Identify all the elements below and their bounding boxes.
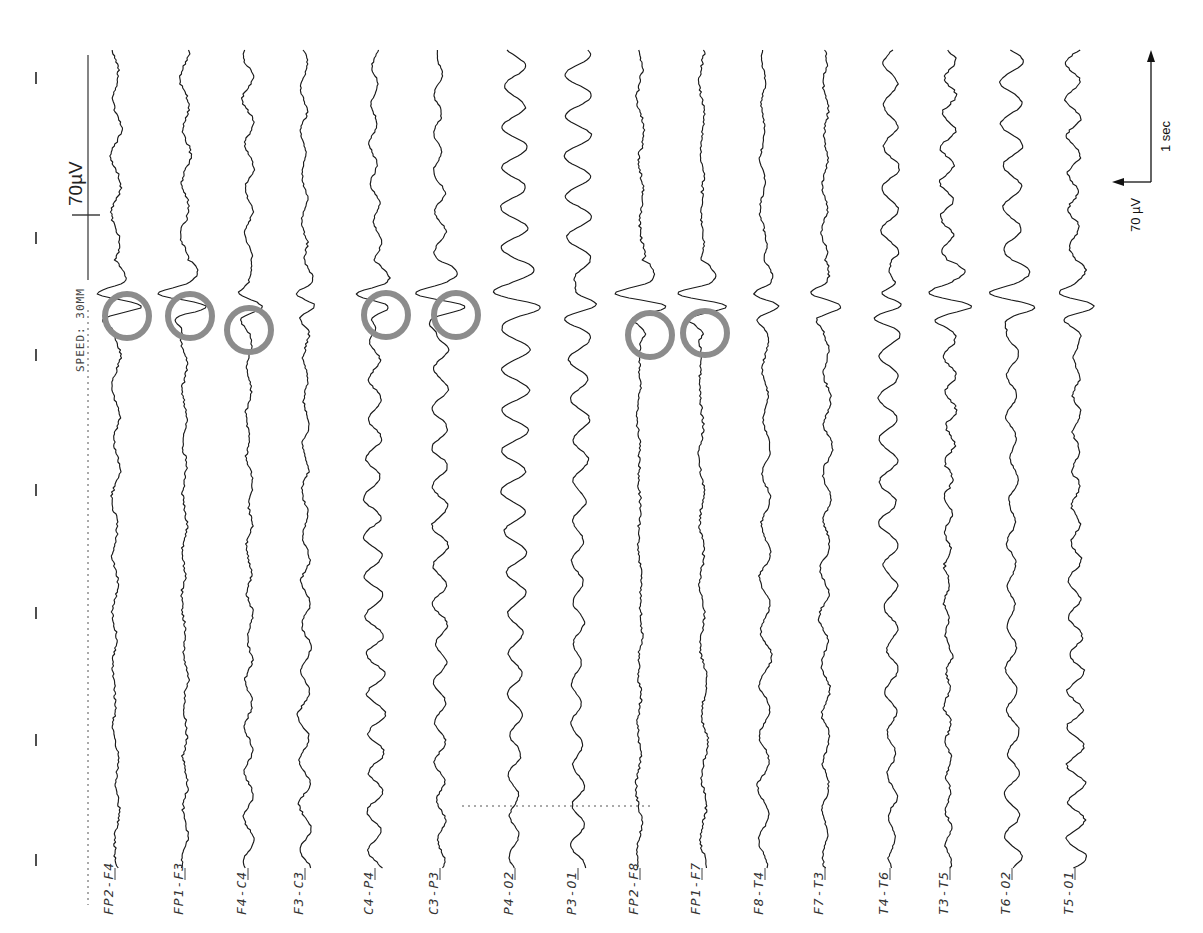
channel-label-c3-p3: C3-P3 xyxy=(426,871,441,915)
eeg-trace-t5-o1 xyxy=(1060,50,1095,868)
eeg-traces xyxy=(97,50,1094,868)
header-strip: SPEED: 30MM 70µV xyxy=(65,55,100,905)
eeg-trace-f4-c4 xyxy=(238,50,262,868)
channel-labels: FP2-F4FP1-F3F4-C4F3-C3C4-P4C3-P3P4-O2P3-… xyxy=(101,806,1076,915)
channel-label-t6-o2: T6-O2 xyxy=(998,871,1013,915)
amplitude-scale-label: 70 µV xyxy=(1128,197,1143,232)
channel-label-fp2-f4: FP2-F4 xyxy=(101,862,116,915)
discharge-circles xyxy=(105,293,727,357)
channel-label-t4-t6: T4-T6 xyxy=(876,871,891,915)
eeg-trace-fp1-f3 xyxy=(158,50,206,868)
eeg-trace-fp2-f8 xyxy=(615,50,666,868)
eeg-trace-fp2-f4 xyxy=(97,50,141,868)
time-scale-label: 1 sec xyxy=(1158,120,1173,152)
scale-bar: 1 sec 70 µV xyxy=(1112,50,1173,232)
arrow-up-icon xyxy=(1147,50,1155,62)
eeg-trace-c4-p4 xyxy=(356,50,390,868)
eeg-trace-f3-c3 xyxy=(296,50,314,868)
eeg-trace-t3-t5 xyxy=(929,50,972,868)
eeg-trace-f7-t3 xyxy=(811,50,841,868)
channel-label-t3-t5: T3-T5 xyxy=(936,871,951,915)
arrow-left-icon xyxy=(1112,178,1124,186)
discharge-circle-fp1-f7 xyxy=(683,311,727,355)
channel-label-fp1-f3: FP1-F3 xyxy=(171,862,186,915)
channel-label-fp1-f7: FP1-F7 xyxy=(688,862,703,915)
channel-label-c4-p4: C4-P4 xyxy=(361,871,376,915)
eeg-trace-f8-t4 xyxy=(754,50,779,868)
channel-label-f7-t3: F7-T3 xyxy=(811,871,826,915)
discharge-circle-fp2-f8 xyxy=(628,313,672,357)
speed-label: SPEED: 30MM xyxy=(74,288,87,372)
eeg-trace-fp1-f7 xyxy=(678,50,726,868)
channel-label-f4-c4: F4-C4 xyxy=(234,871,249,915)
calibration-label: 70µV xyxy=(65,161,86,206)
channel-label-t5-o1: T5-O1 xyxy=(1061,871,1076,915)
channel-label-fp2-f8: FP2-F8 xyxy=(626,862,641,915)
eeg-figure: SPEED: 30MM 70µV FP2-F4FP1-F3F4-C4F3-C3C… xyxy=(0,0,1203,933)
eeg-trace-p4-o2 xyxy=(493,50,540,868)
channel-label-p4-o2: P4-O2 xyxy=(501,871,516,915)
discharge-circle-c4-p4 xyxy=(364,293,408,337)
eeg-trace-c3-p3 xyxy=(416,50,465,868)
channel-label-f8-t4: F8-T4 xyxy=(751,871,766,915)
channel-label-p3-o1: P3-O1 xyxy=(564,871,579,915)
discharge-circle-fp1-f3 xyxy=(168,294,212,338)
eeg-trace-t4-t6 xyxy=(874,50,901,868)
eeg-trace-t6-o2 xyxy=(990,50,1035,868)
channel-label-f3-c3: F3-C3 xyxy=(291,871,306,915)
eeg-trace-p3-o1 xyxy=(564,50,596,868)
